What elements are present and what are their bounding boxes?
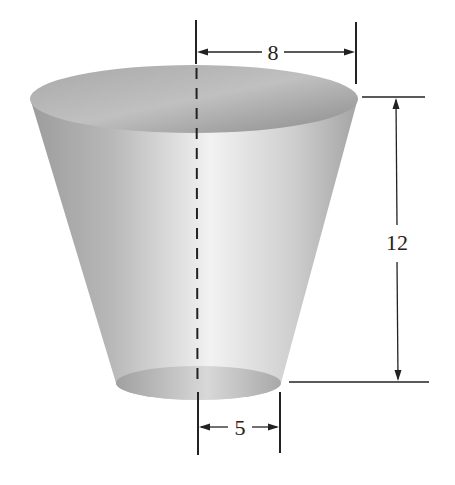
frustum-body xyxy=(30,98,358,400)
top-radius-label: 8 xyxy=(268,40,279,65)
arrowhead-right-icon xyxy=(268,424,279,431)
arrowhead-up-icon xyxy=(393,98,400,109)
top-opening xyxy=(30,65,358,133)
arrowhead-right-icon xyxy=(344,49,355,56)
arrowhead-left-icon xyxy=(197,49,208,56)
height-label: 12 xyxy=(386,230,408,255)
arrowhead-left-icon xyxy=(199,424,210,431)
bottom-radius-label: 5 xyxy=(235,415,246,440)
frustum-diagram: 8 12 5 xyxy=(0,0,455,485)
arrowhead-down-icon xyxy=(395,370,402,381)
